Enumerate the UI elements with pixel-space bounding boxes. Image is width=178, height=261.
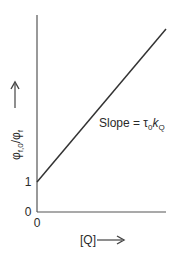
y-tick-0: 0	[25, 205, 32, 219]
x-tick-0: 0	[34, 216, 41, 230]
data-line	[37, 29, 166, 182]
x-axis-label: [Q]	[80, 233, 96, 247]
x-axis-arrow-icon	[97, 236, 124, 244]
chart-canvas: 1 0 0 [Q] φf,0/φf Slope = τ0kQ	[0, 0, 178, 261]
svg-text:φf,0/φf: φf,0/φf	[9, 129, 25, 160]
y-axis-label: φf,0/φf	[9, 129, 25, 160]
slope-annotation: Slope = τ0kQ	[99, 116, 165, 132]
y-tick-1: 1	[25, 175, 32, 189]
y-axis-arrow-icon	[11, 82, 19, 108]
